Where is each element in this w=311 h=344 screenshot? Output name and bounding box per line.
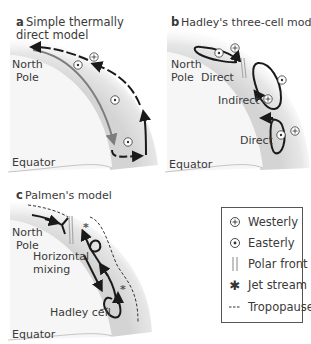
panel-c-title: Palmen's model bbox=[25, 189, 112, 202]
pole-label: Pole bbox=[171, 71, 194, 84]
svg-text:b: b bbox=[171, 15, 179, 29]
westerly-icon bbox=[231, 44, 239, 52]
equator-label: Equator bbox=[169, 158, 213, 171]
legend-label: Jet stream bbox=[248, 278, 307, 292]
easterly-icon bbox=[278, 76, 286, 84]
cell-label-direct-hadley: Direct bbox=[240, 134, 274, 147]
easterly-icon bbox=[277, 131, 285, 139]
panel-b-title: Hadley's three-cell model bbox=[181, 16, 311, 29]
north-label: North bbox=[171, 58, 202, 71]
panel-a-title-line2: direct model bbox=[16, 28, 88, 42]
westerly-icon bbox=[90, 53, 98, 61]
legend-item-polar-front: Polar front bbox=[228, 257, 308, 271]
panel-c-palmens-model: * * c Palmen's model North Pole Horizont… bbox=[0, 172, 160, 344]
easterly-icon bbox=[228, 236, 242, 250]
westerly-icon bbox=[264, 95, 272, 103]
legend-label: Westerly bbox=[248, 215, 298, 229]
legend-label: Polar front bbox=[248, 257, 308, 271]
pole-label: Pole bbox=[16, 71, 39, 84]
horizontal-label: Horizontal bbox=[33, 250, 89, 263]
legend-item-westerly: Westerly bbox=[228, 215, 298, 229]
mixing-label: mixing bbox=[33, 263, 70, 276]
north-label: North bbox=[12, 226, 43, 239]
panel-b-hadley-three-cell-model: b Hadley's three-cell model North Pole D… bbox=[155, 0, 311, 175]
easterly-icon bbox=[124, 138, 132, 146]
panel-a-simple-thermally-direct-model: a Simple thermally direct model North Po… bbox=[0, 0, 160, 175]
tropopause-icon bbox=[228, 300, 242, 314]
westerly-icon bbox=[228, 215, 242, 229]
jet-stream-icon: * bbox=[83, 221, 89, 234]
north-label: North bbox=[12, 58, 43, 71]
hadley-cell-label: Hadley cell bbox=[50, 306, 111, 319]
jet-stream-icon: ✱ bbox=[228, 278, 242, 292]
polar-front-icon bbox=[228, 257, 242, 271]
panel-a-letter: a bbox=[16, 15, 24, 29]
legend-item-tropopause: Tropopause bbox=[228, 300, 311, 314]
legend-label: Easterly bbox=[248, 236, 295, 250]
equator-label: Equator bbox=[12, 156, 56, 169]
legend-label: Tropopause bbox=[248, 300, 311, 314]
panel-c-letter: c bbox=[16, 188, 23, 202]
panel-a-title-line1: Simple thermally bbox=[26, 15, 124, 29]
svg-text:a: a bbox=[16, 15, 24, 29]
westerly-icon bbox=[291, 127, 299, 135]
panel-b-letter: b bbox=[171, 15, 179, 29]
cell-label-direct-polar: Direct bbox=[201, 71, 235, 84]
legend-item-easterly: Easterly bbox=[228, 236, 295, 250]
equator-label: Equator bbox=[12, 328, 56, 341]
easterly-icon bbox=[74, 61, 82, 69]
legend-item-jet-stream: ✱ Jet stream bbox=[228, 278, 307, 292]
jet-stream-icon: * bbox=[120, 283, 126, 296]
easterly-icon bbox=[215, 49, 223, 57]
legend: Westerly Easterly Polar front ✱ Jet stre… bbox=[221, 207, 303, 323]
cell-label-indirect: Indirect bbox=[218, 94, 260, 107]
easterly-icon bbox=[111, 96, 119, 104]
svg-text:c: c bbox=[16, 188, 23, 202]
